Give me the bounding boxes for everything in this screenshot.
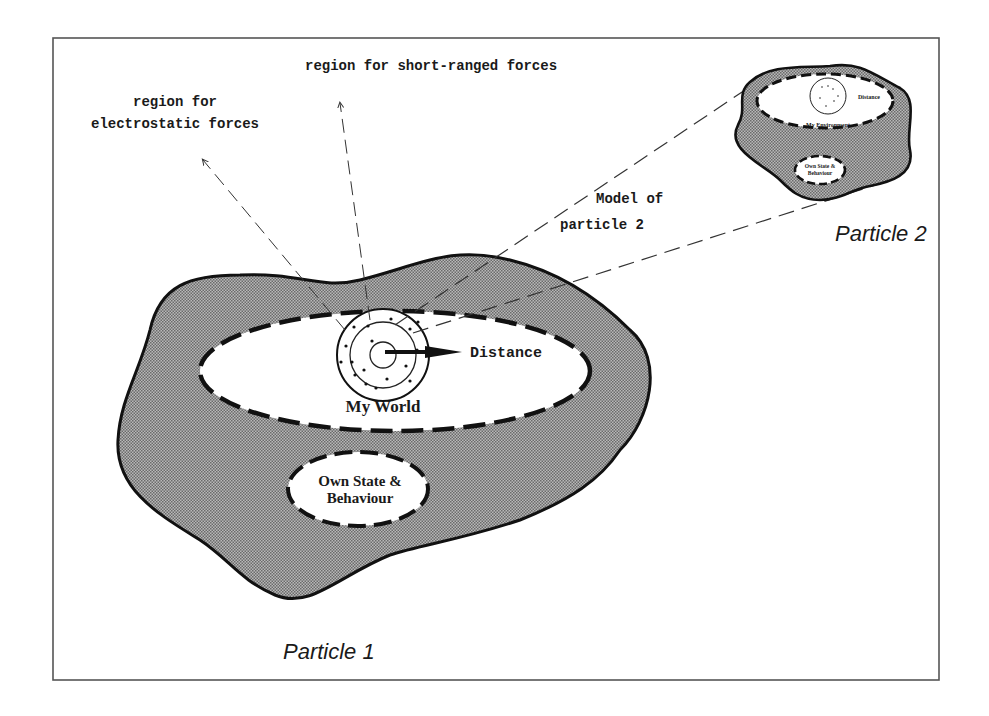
short-ranged-label: region for short-ranged forces bbox=[305, 58, 557, 74]
distance-label: Distance bbox=[470, 345, 542, 362]
own-state-label-1: Own State & bbox=[318, 473, 401, 489]
model-label-2: particle 2 bbox=[560, 217, 644, 233]
particle-2: Distance My Environment Own State & Beha… bbox=[735, 65, 910, 200]
p2-environment-label: My Environment bbox=[806, 122, 850, 128]
diagram-canvas: Distance My World Own State & Behaviour … bbox=[0, 0, 989, 716]
electrostatic-label-1: region for bbox=[133, 94, 217, 110]
particle-2-label: Particle 2 bbox=[835, 221, 927, 246]
own-state-label-2: Behaviour bbox=[327, 490, 394, 506]
p2-own-state-label-1: Own State & bbox=[805, 163, 836, 169]
my-world-label: My World bbox=[346, 397, 421, 416]
electrostatic-label-2: electrostatic forces bbox=[91, 116, 259, 132]
own-state-region bbox=[288, 452, 428, 526]
p2-distance-label: Distance bbox=[858, 94, 880, 100]
model-label-1: Model of bbox=[596, 191, 663, 207]
p2-own-state-label-2: Behaviour bbox=[808, 170, 833, 176]
particle-1-label: Particle 1 bbox=[283, 639, 375, 664]
sensor-rings bbox=[337, 309, 429, 401]
